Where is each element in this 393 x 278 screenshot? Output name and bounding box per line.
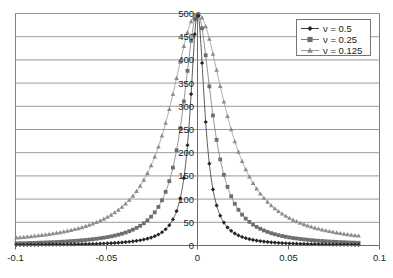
- data-point-marker: [124, 231, 128, 235]
- legend-label: ν = 0.5: [323, 23, 352, 34]
- data-point-marker: [244, 217, 248, 221]
- legend-label: ν = 0.25: [323, 34, 357, 45]
- data-point-marker: [240, 213, 244, 217]
- y-tick-label: 150: [178, 170, 194, 181]
- data-point-marker: [102, 236, 106, 240]
- data-point-marker: [127, 229, 131, 233]
- data-point-marker: [91, 237, 95, 241]
- data-point-marker: [80, 238, 84, 242]
- data-point-marker: [156, 205, 160, 209]
- data-point-marker: [138, 224, 142, 228]
- data-point-marker: [164, 190, 168, 194]
- data-point-marker: [207, 85, 211, 89]
- data-point-marker: [84, 238, 88, 242]
- data-point-marker: [76, 239, 80, 243]
- data-point-marker: [149, 215, 153, 219]
- data-point-marker: [277, 233, 281, 237]
- data-point-marker: [226, 185, 230, 189]
- y-tick-label: 50: [183, 217, 194, 228]
- data-point-marker: [302, 238, 306, 242]
- data-point-marker: [186, 69, 190, 73]
- data-point-marker: [229, 194, 233, 198]
- y-tick-label: 0: [189, 240, 194, 251]
- x-tick-label: 0.05: [279, 252, 298, 263]
- data-point-marker: [120, 232, 124, 236]
- y-tick-label: 300: [178, 101, 194, 112]
- legend-label: ν = 0.125: [323, 45, 362, 56]
- data-point-marker: [291, 236, 295, 240]
- data-point-marker: [218, 158, 222, 162]
- data-point-marker: [106, 235, 110, 239]
- data-point-marker: [87, 238, 91, 242]
- data-point-marker: [73, 239, 77, 243]
- data-point-marker: [233, 202, 237, 206]
- y-tick-label: 200: [178, 147, 194, 158]
- data-point-marker: [255, 225, 259, 229]
- data-point-marker: [204, 53, 208, 57]
- data-point-marker: [109, 234, 113, 238]
- data-point-marker: [306, 238, 310, 242]
- data-point-marker: [146, 218, 150, 222]
- data-point-marker: [116, 233, 120, 237]
- data-point-marker: [284, 235, 288, 239]
- data-point-marker: [258, 227, 262, 231]
- data-point-marker: [153, 210, 157, 214]
- y-tick-label: 450: [178, 31, 194, 42]
- data-point-marker: [295, 237, 299, 241]
- data-point-marker: [237, 208, 241, 212]
- data-point-marker: [171, 166, 175, 170]
- data-point-marker: [309, 238, 313, 242]
- data-point-marker: [298, 237, 302, 241]
- data-point-marker: [211, 114, 215, 118]
- data-point-marker: [142, 221, 146, 225]
- y-tick-label: 250: [178, 124, 194, 135]
- data-point-marker: [95, 237, 99, 241]
- y-tick-label: 400: [178, 54, 194, 65]
- x-tick-label: 0.1: [373, 252, 386, 263]
- data-point-marker: [247, 220, 251, 224]
- x-tick-label: -0.05: [96, 252, 118, 263]
- data-point-marker: [280, 234, 284, 238]
- data-point-marker: [313, 239, 317, 243]
- data-point-marker: [251, 223, 255, 227]
- data-point-marker: [160, 198, 164, 202]
- data-point-marker: [307, 37, 312, 42]
- data-point-marker: [200, 26, 204, 30]
- data-point-marker: [262, 229, 266, 233]
- x-tick-label: -0.1: [7, 252, 23, 263]
- chart-container: 050100150200250300350400450500 -0.1-0.05…: [0, 0, 393, 278]
- y-tick-label: 350: [178, 78, 194, 89]
- data-point-marker: [317, 239, 321, 243]
- data-point-marker: [266, 230, 270, 234]
- data-point-marker: [113, 234, 117, 238]
- data-point-marker: [269, 231, 273, 235]
- data-point-marker: [273, 232, 277, 236]
- chart-legend[interactable]: ν = 0.5ν = 0.25ν = 0.125: [297, 20, 371, 56]
- y-tick-label: 500: [178, 8, 194, 19]
- y-tick-label: 100: [178, 194, 194, 205]
- data-point-marker: [222, 173, 226, 177]
- data-point-marker: [167, 179, 171, 183]
- data-point-marker: [215, 138, 219, 142]
- data-point-marker: [135, 226, 139, 230]
- data-point-marker: [288, 236, 292, 240]
- data-point-marker: [98, 236, 102, 240]
- line-chart: 050100150200250300350400450500 -0.1-0.05…: [0, 0, 393, 278]
- x-tick-label: 0: [195, 252, 200, 263]
- data-point-marker: [131, 228, 135, 232]
